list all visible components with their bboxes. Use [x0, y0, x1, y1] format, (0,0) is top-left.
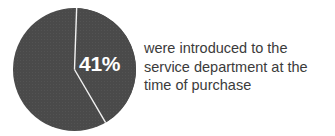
- figure-canvas: 41% were introduced to the service depar…: [0, 0, 335, 136]
- pie-slice-percent-label: 41%: [79, 52, 131, 76]
- caption-text: were introduced to the service departmen…: [144, 39, 330, 95]
- caption-line-1: were introduced to the: [144, 39, 330, 58]
- caption-line-3: time of purchase: [144, 76, 330, 95]
- caption-line-2: service department at the: [144, 58, 330, 77]
